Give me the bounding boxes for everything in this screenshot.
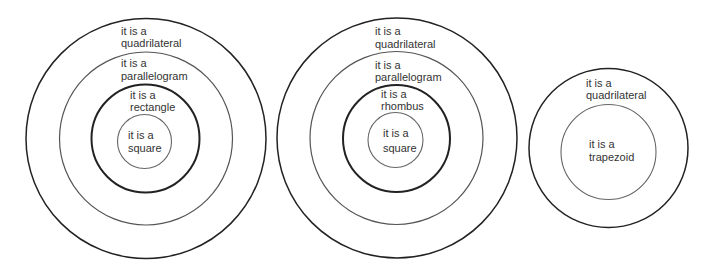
label-quadrilateral-line1: it is a	[586, 77, 613, 89]
label-rectangle-line1: it is a	[130, 89, 157, 101]
label-quadrilateral-line1: it is a	[121, 25, 148, 37]
quadrilateral-venn-diagram: it is a quadrilateral it is a parallelog…	[0, 0, 714, 277]
label-square-line1: it is a	[128, 129, 155, 141]
label-trapezoid-line1: it is a	[589, 138, 616, 150]
label-trapezoid-line2: trapezoid	[589, 151, 634, 163]
label-quadrilateral-line1: it is a	[375, 25, 402, 37]
label-parallelogram-line2: parallelogram	[375, 71, 442, 83]
ring-square	[368, 113, 423, 168]
group-trapezoid: it is a quadrilateral it is a trapezoid	[529, 69, 688, 228]
label-parallelogram-line1: it is a	[121, 57, 148, 69]
group-rhombus: it is a quadrilateral it is a parallelog…	[277, 18, 517, 258]
label-parallelogram-line2: parallelogram	[121, 70, 188, 82]
label-square-line2: square	[383, 142, 417, 154]
label-quadrilateral-line2: quadrilateral	[375, 38, 436, 50]
label-rhombus-line1: it is a	[381, 88, 408, 100]
label-rhombus-line2: rhombus	[381, 100, 424, 112]
label-rectangle-line2: rectangle	[130, 101, 175, 113]
label-parallelogram-line1: it is a	[375, 59, 402, 71]
label-quadrilateral-line2: quadrilateral	[121, 37, 182, 49]
label-square-line2: square	[128, 142, 162, 154]
label-square-line1: it is a	[383, 127, 410, 139]
label-quadrilateral-line2: quadrilateral	[586, 89, 647, 101]
group-rectangle: it is a quadrilateral it is a parallelog…	[26, 19, 266, 259]
